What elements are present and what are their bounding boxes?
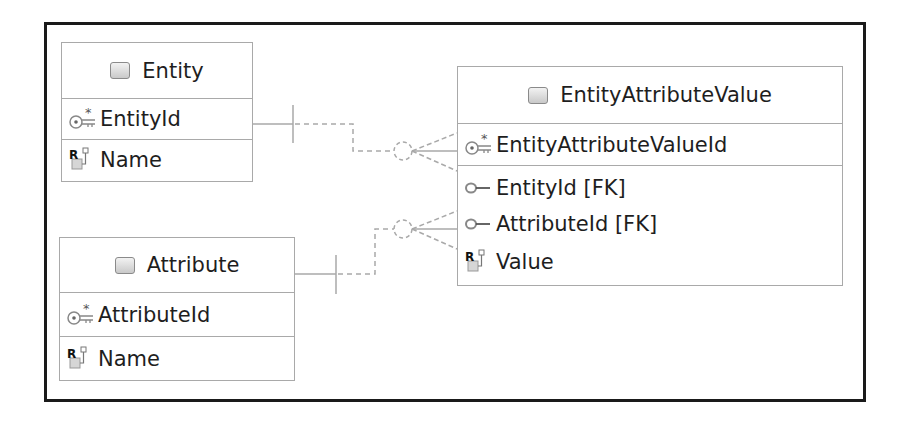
entity-type-icon (528, 87, 548, 104)
svg-text:*: * (85, 106, 92, 120)
required-property-icon: R (66, 346, 96, 372)
property-label: AttributeId [FK] (496, 212, 657, 236)
required-property-icon: R (68, 147, 98, 173)
zero-cardinality-circle (394, 220, 412, 238)
primary-key-icon: * (464, 132, 494, 158)
entity-header[interactable]: Entity (62, 43, 252, 99)
entity-type-icon (115, 257, 135, 274)
property-label: Name (98, 347, 160, 371)
property-row[interactable]: R Value (458, 243, 842, 281)
svg-text:R: R (465, 250, 474, 264)
relationship-attribute-eav[interactable] (295, 211, 457, 294)
property-label: AttributeId (98, 303, 210, 327)
entity-type-icon (110, 62, 130, 79)
property-row[interactable]: R Name (60, 337, 294, 380)
property-label: EntityId (100, 107, 181, 131)
entity-table-attribute[interactable]: Attribute * AttributeId R Name (59, 237, 295, 381)
primary-key-icon: * (66, 302, 96, 328)
property-label: Name (100, 148, 162, 172)
entity-table-entity[interactable]: Entity * EntityId R Name (61, 42, 253, 182)
property-label: Value (496, 250, 554, 274)
svg-text:R: R (69, 148, 78, 162)
property-label: EntityAttributeValueId (496, 133, 727, 157)
primary-key-icon: * (68, 106, 98, 132)
required-property-icon: R (464, 249, 494, 275)
property-row[interactable]: EntityId [FK] (458, 166, 842, 205)
property-row[interactable]: * AttributeId (60, 293, 294, 337)
entity-header[interactable]: Attribute (60, 238, 294, 293)
relationship-entity-eav[interactable] (253, 105, 457, 171)
entity-table-entityattributevalue[interactable]: EntityAttributeValue * EntityAttributeVa… (457, 66, 843, 286)
svg-text:*: * (481, 132, 488, 146)
svg-text:*: * (83, 302, 90, 316)
zero-cardinality-circle (394, 142, 412, 160)
entity-name: EntityAttributeValue (560, 83, 772, 107)
entity-name: Attribute (147, 253, 240, 277)
property-row[interactable]: * EntityId (62, 99, 252, 140)
foreign-key-icon (464, 211, 494, 237)
property-row[interactable]: * EntityAttributeValueId (458, 124, 842, 166)
entity-header[interactable]: EntityAttributeValue (458, 67, 842, 124)
property-row[interactable]: AttributeId [FK] (458, 205, 842, 243)
property-row[interactable]: R Name (62, 140, 252, 180)
svg-text:R: R (67, 347, 76, 361)
entity-name: Entity (142, 59, 203, 83)
foreign-key-icon (464, 175, 494, 201)
property-label: EntityId [FK] (496, 176, 626, 200)
